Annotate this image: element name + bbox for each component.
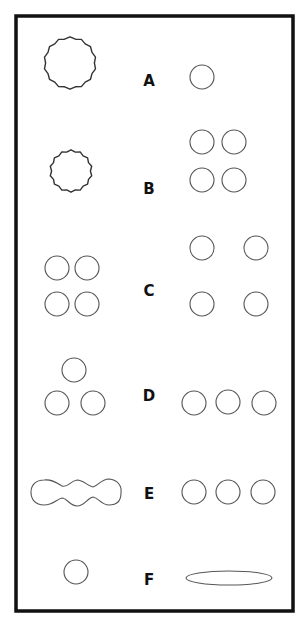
circle-shape: [216, 480, 240, 504]
row-label: A: [143, 72, 155, 90]
circle-shape: [251, 480, 275, 504]
right-shape-group: [186, 571, 272, 585]
ellipse-shape: [186, 571, 272, 585]
row-d: D: [45, 358, 276, 415]
circle-shape: [252, 391, 276, 415]
right-shape-group: [190, 130, 246, 192]
circle-shape: [190, 65, 214, 89]
circle-shape: [81, 391, 105, 415]
row-label: E: [144, 485, 154, 503]
right-shape-group: [190, 65, 214, 89]
circle-shape: [75, 256, 99, 280]
circle-shape: [244, 236, 268, 260]
left-shape-group: [45, 37, 96, 89]
row-f: F: [64, 560, 272, 589]
circle-shape: [45, 256, 69, 280]
right-shape-group: [190, 236, 268, 316]
left-shape-group: [45, 358, 105, 415]
row-label: C: [143, 282, 154, 300]
circle-shape: [75, 292, 99, 316]
row-e: E: [31, 479, 275, 506]
circle-shape: [182, 480, 206, 504]
circle-shape: [222, 168, 246, 192]
left-shape-group: [45, 256, 99, 316]
right-shape-group: [182, 390, 276, 415]
row-b: B: [50, 130, 246, 198]
circle-shape: [50, 150, 91, 192]
circle-shape: [216, 390, 240, 414]
circle-shape: [64, 560, 88, 584]
left-shape-group: [64, 560, 88, 584]
figure-frame: [16, 16, 293, 611]
circle-shape: [190, 292, 214, 316]
comparison-rows: ABCDEF: [31, 37, 276, 589]
diagram-canvas: ABCDEF: [0, 0, 304, 623]
circle-shape: [190, 236, 214, 260]
row-label: B: [143, 180, 154, 198]
row-label: F: [144, 571, 154, 589]
circle-shape: [190, 130, 214, 154]
chain-shape: [31, 479, 121, 506]
right-shape-group: [182, 480, 275, 504]
circle-shape: [190, 168, 214, 192]
row-label: D: [143, 387, 155, 405]
left-shape-group: [31, 479, 121, 506]
circle-shape: [62, 358, 86, 382]
circle-shape: [244, 292, 268, 316]
circle-shape: [222, 130, 246, 154]
circle-shape: [45, 292, 69, 316]
circle-shape: [45, 37, 96, 89]
row-a: A: [45, 37, 215, 90]
circle-shape: [182, 391, 206, 415]
circle-shape: [45, 391, 69, 415]
left-shape-group: [50, 150, 91, 192]
row-c: C: [45, 236, 268, 316]
